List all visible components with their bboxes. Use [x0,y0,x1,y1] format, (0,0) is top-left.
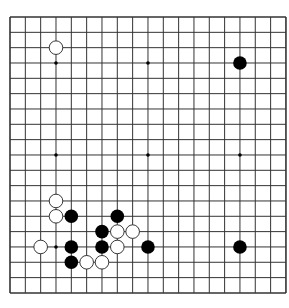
white-stone[interactable] [111,240,125,254]
black-stone[interactable] [141,240,155,254]
white-stone[interactable] [49,41,63,55]
white-stone[interactable] [111,225,125,239]
star-point [54,61,58,65]
black-stone[interactable] [65,255,79,269]
white-stone[interactable] [126,225,140,239]
black-stone[interactable] [233,240,247,254]
white-stone[interactable] [49,194,63,208]
black-stone[interactable] [111,209,125,223]
star-point [146,153,150,157]
black-stone[interactable] [65,209,79,223]
black-stone[interactable] [233,56,247,70]
white-stone[interactable] [80,255,94,269]
black-stone[interactable] [65,240,79,254]
star-point [54,245,58,249]
star-point [146,61,150,65]
star-point [54,153,58,157]
black-stone[interactable] [95,240,109,254]
white-stone[interactable] [49,209,63,223]
star-point [238,153,242,157]
go-board[interactable] [0,0,289,308]
white-stone[interactable] [95,255,109,269]
black-stone[interactable] [95,225,109,239]
white-stone[interactable] [34,240,48,254]
